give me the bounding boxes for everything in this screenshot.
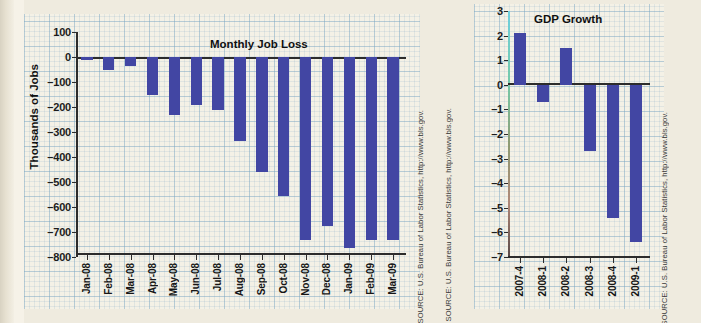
- plot-area: [508, 11, 648, 257]
- x-tick-label: Mar-09: [387, 263, 398, 295]
- x-tick-mark: [520, 258, 521, 263]
- x-tick-mark: [371, 255, 372, 260]
- x-tick-label: 2008-3: [584, 266, 595, 297]
- bar: [103, 57, 114, 70]
- y-tick-label: –4: [491, 177, 503, 189]
- x-tick-label: Feb-08: [103, 263, 114, 295]
- x-tick-label: Oct-08: [278, 263, 289, 294]
- x-tick-mark: [636, 258, 637, 263]
- x-tick-label: Nov-08: [300, 263, 311, 296]
- chart-gdp-growth: GDP Growth 3210–1–2–3–4–5–6–7 2007-42008…: [474, 4, 664, 309]
- y-tick-label: –7: [491, 251, 503, 263]
- bar: [234, 57, 245, 141]
- plot-area: [76, 32, 404, 257]
- y-tick-label: 0: [65, 51, 71, 63]
- y-tick-label: 3: [497, 5, 503, 17]
- y-tick-label: 0: [497, 79, 503, 91]
- y-tick-label: 100: [53, 26, 71, 38]
- y-tick-label: –6: [491, 226, 503, 238]
- bar: [81, 57, 92, 60]
- bar: [212, 57, 223, 110]
- x-tick-mark: [284, 255, 285, 260]
- x-tick-label: Feb-09: [365, 263, 376, 295]
- bar: [169, 57, 180, 115]
- y-axis-title: Thousands of Jobs: [28, 64, 40, 169]
- x-tick-mark: [87, 255, 88, 260]
- x-tick-mark: [613, 258, 614, 263]
- source-note-right: SOURCE: U.S. Bureau of Labor Statistics,…: [660, 112, 669, 323]
- x-tick-mark: [262, 255, 263, 260]
- source-note-middle: SOURCE: U.S. Bureau of Labor Statistics,…: [444, 108, 453, 322]
- x-tick-label: Jan-09: [343, 263, 354, 294]
- x-tick-mark: [174, 255, 175, 260]
- bar: [560, 48, 572, 85]
- x-tick-mark: [393, 255, 394, 260]
- page-left-edge: [0, 0, 14, 323]
- x-tick-mark: [306, 255, 307, 260]
- y-tick-label: –500: [47, 176, 71, 188]
- x-tick-label: 2008-1: [537, 266, 548, 297]
- source-note-left: SOURCE: U.S. Bureau of Labor Statistics,…: [416, 110, 425, 323]
- bar: [344, 57, 355, 248]
- bar: [125, 57, 136, 66]
- bar: [537, 85, 549, 102]
- x-tick-mark: [131, 255, 132, 260]
- x-tick-label: 2008-4: [607, 266, 618, 297]
- y-tick-label: –5: [491, 202, 503, 214]
- x-tick-label: Mar-08: [125, 263, 136, 295]
- bar: [256, 57, 267, 172]
- x-tick-mark: [349, 255, 350, 260]
- bar: [584, 85, 596, 151]
- bar: [387, 57, 398, 240]
- x-tick-mark: [196, 255, 197, 260]
- x-tick-label: Sep-08: [256, 263, 267, 295]
- x-tick-label: 2007-4: [514, 266, 525, 297]
- bar: [630, 85, 642, 242]
- y-tick-label: 1: [497, 54, 503, 66]
- y-tick-label: –600: [47, 201, 71, 213]
- x-tick-mark: [327, 255, 328, 260]
- x-tick-label: Jan-08: [81, 263, 92, 294]
- y-tick-label: –1: [491, 103, 503, 115]
- bar: [278, 57, 289, 196]
- y-tick-label: –3: [491, 153, 503, 165]
- y-tick-label: 2: [497, 30, 503, 42]
- x-tick-label: 2008-2: [560, 266, 571, 297]
- x-tick-label: Apr-08: [147, 263, 158, 294]
- y-tick-label: –2: [491, 128, 503, 140]
- bar: [191, 57, 202, 105]
- bar: [366, 57, 377, 240]
- bar: [147, 57, 158, 95]
- chart-monthly-job-loss: Thousands of Jobs Monthly Job Loss 1000–…: [24, 14, 420, 309]
- x-tick-mark: [240, 255, 241, 260]
- x-tick-label: May-08: [168, 263, 179, 296]
- y-tick-label: –300: [47, 126, 71, 138]
- x-tick-label: Jul-08: [212, 263, 223, 291]
- x-tick-label: 2009-1: [630, 266, 641, 297]
- y-tick-label: –200: [47, 101, 71, 113]
- x-tick-mark: [543, 258, 544, 263]
- x-tick-label: Aug-08: [234, 263, 245, 296]
- y-tick-mark: [504, 257, 508, 258]
- y-tick-label: –400: [47, 151, 71, 163]
- y-tick-mark: [72, 257, 76, 258]
- y-tick-label: –700: [47, 226, 71, 238]
- y-tick-label: –800: [47, 251, 71, 263]
- bar: [300, 57, 311, 240]
- bar: [607, 85, 619, 218]
- x-tick-mark: [153, 255, 154, 260]
- x-tick-mark: [590, 258, 591, 263]
- page-left-margin: [14, 0, 24, 323]
- x-tick-label: Dec-08: [321, 263, 332, 295]
- bar: [322, 57, 333, 226]
- x-tick-mark: [566, 258, 567, 263]
- y-tick-label: –100: [47, 76, 71, 88]
- x-tick-mark: [218, 255, 219, 260]
- x-tick-mark: [109, 255, 110, 260]
- bar: [514, 33, 526, 85]
- x-tick-label: Jun-08: [190, 263, 201, 295]
